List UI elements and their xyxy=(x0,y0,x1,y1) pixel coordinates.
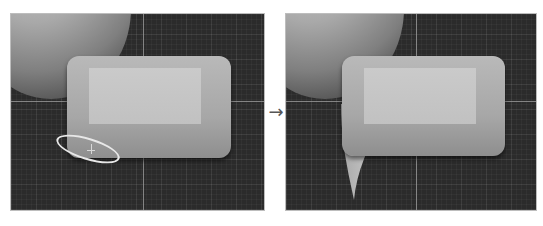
brush-cursor-crosshair xyxy=(87,150,95,151)
transition-arrow-icon: → xyxy=(266,103,286,121)
brush-cursor-icon xyxy=(91,144,92,154)
slab-top-face xyxy=(89,68,201,124)
slab-top-face xyxy=(364,68,476,124)
viewport-before[interactable] xyxy=(11,14,264,210)
slab-mesh xyxy=(342,56,505,156)
viewport-after[interactable] xyxy=(286,14,536,210)
